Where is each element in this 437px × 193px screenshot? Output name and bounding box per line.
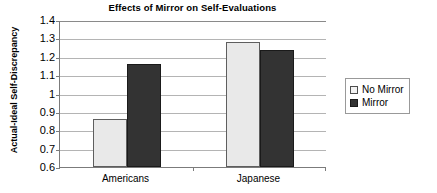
y-axis-tick xyxy=(56,76,60,77)
bar-japanese-mirror xyxy=(260,50,294,167)
y-tick-label: 0.8 xyxy=(21,125,55,136)
y-axis-tick xyxy=(56,95,60,96)
y-tick-label: 1.1 xyxy=(21,70,55,81)
y-axis-tick xyxy=(56,113,60,114)
plot-area xyxy=(59,21,325,168)
bar-japanese-no-mirror xyxy=(226,42,260,167)
x-axis-tick xyxy=(325,167,326,171)
x-axis-tick xyxy=(193,167,194,171)
y-tick-label: 1.4 xyxy=(21,15,55,26)
gridline xyxy=(60,39,326,40)
y-axis-tick xyxy=(56,131,60,132)
bar-americans-no-mirror xyxy=(93,119,127,167)
legend-item-mirror: Mirror xyxy=(350,96,404,109)
legend-item-no-mirror: No Mirror xyxy=(350,83,404,96)
gridline xyxy=(60,21,326,22)
y-axis-tick xyxy=(56,39,60,40)
y-axis-tick xyxy=(56,58,60,59)
bar-americans-mirror xyxy=(127,64,161,167)
y-tick-label: 1.3 xyxy=(21,33,55,44)
chart-legend: No Mirror Mirror xyxy=(345,78,410,114)
legend-label: Mirror xyxy=(362,98,388,108)
y-tick-label: 0.9 xyxy=(21,107,55,118)
y-axis-tick xyxy=(56,150,60,151)
y-axis-tick-labels: 1.4 1.3 1.2 1.1 1 0.9 0.8 0.7 0.6 xyxy=(18,21,55,168)
bar-chart: Effects of Mirror on Self-Evaluations Ac… xyxy=(0,0,437,193)
y-axis-tick xyxy=(56,21,60,22)
x-axis-label-americans: Americans xyxy=(59,173,192,184)
y-axis-tick xyxy=(56,168,60,169)
y-tick-label: 0.6 xyxy=(21,162,55,173)
legend-label: No Mirror xyxy=(362,85,404,95)
y-tick-label: 1 xyxy=(21,89,55,100)
chart-title: Effects of Mirror on Self-Evaluations xyxy=(60,2,325,13)
y-tick-label: 1.2 xyxy=(21,52,55,63)
light-swatch-icon xyxy=(350,86,358,94)
x-axis-label-japanese: Japanese xyxy=(192,173,325,184)
y-tick-label: 0.7 xyxy=(21,144,55,155)
dark-swatch-icon xyxy=(350,99,358,107)
